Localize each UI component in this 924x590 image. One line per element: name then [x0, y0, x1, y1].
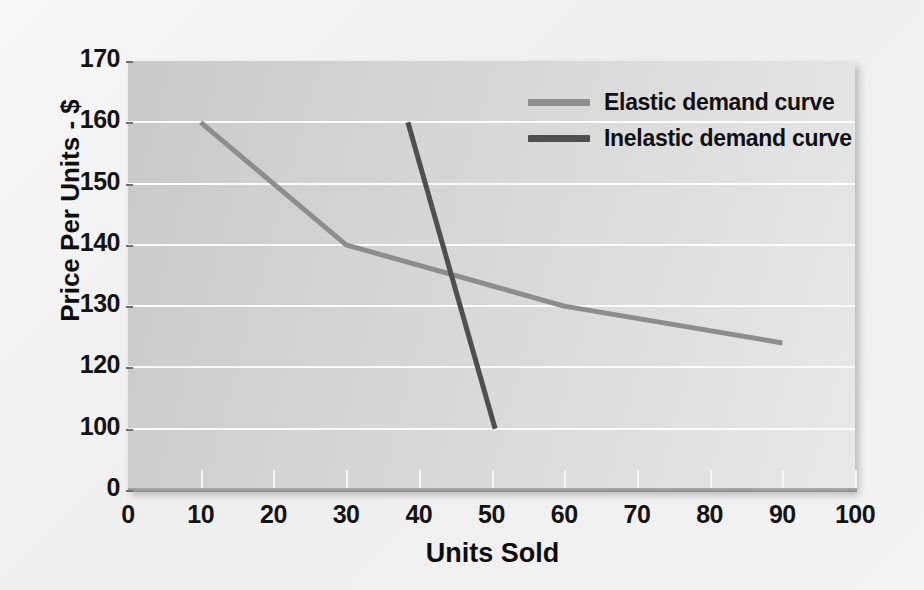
x-axis-title: Units Sold	[128, 538, 857, 569]
x-tick-mark	[710, 470, 712, 488]
series-line	[408, 122, 495, 428]
y-tick-mark	[126, 306, 133, 308]
y-tick-mark	[126, 245, 133, 247]
chart-figure: Elastic demand curveInelastic demand cur…	[0, 0, 924, 590]
x-tick-label: 60	[529, 500, 599, 529]
y-tick-mark	[126, 184, 133, 186]
y-tick-label: 0	[20, 473, 120, 502]
x-tick-label: 30	[311, 500, 381, 529]
x-tick-mark	[201, 470, 203, 488]
x-tick-mark	[346, 470, 348, 488]
x-tick-label: 0	[93, 500, 163, 529]
x-tick-mark	[855, 470, 857, 488]
y-axis-title: Price Per Units - $	[55, 1, 86, 421]
y-tick-mark	[126, 122, 133, 124]
x-tick-label: 100	[820, 500, 890, 529]
x-tick-mark	[419, 470, 421, 488]
x-tick-mark	[564, 470, 566, 488]
x-tick-label: 90	[747, 500, 817, 529]
y-tick-mark	[126, 490, 133, 492]
series-line	[201, 122, 783, 343]
x-axis-line	[128, 488, 857, 492]
data-curves	[128, 61, 855, 490]
x-tick-label: 40	[384, 500, 454, 529]
x-tick-label: 50	[457, 500, 527, 529]
y-tick-mark	[126, 367, 133, 369]
y-tick-mark	[126, 61, 133, 63]
x-tick-label: 80	[675, 500, 745, 529]
x-tick-label: 10	[166, 500, 236, 529]
x-tick-mark	[637, 470, 639, 488]
x-tick-mark	[782, 470, 784, 488]
x-tick-mark	[492, 470, 494, 488]
x-tick-label: 70	[602, 500, 672, 529]
x-tick-label: 20	[238, 500, 308, 529]
y-tick-mark	[126, 429, 133, 431]
x-tick-mark	[273, 470, 275, 488]
